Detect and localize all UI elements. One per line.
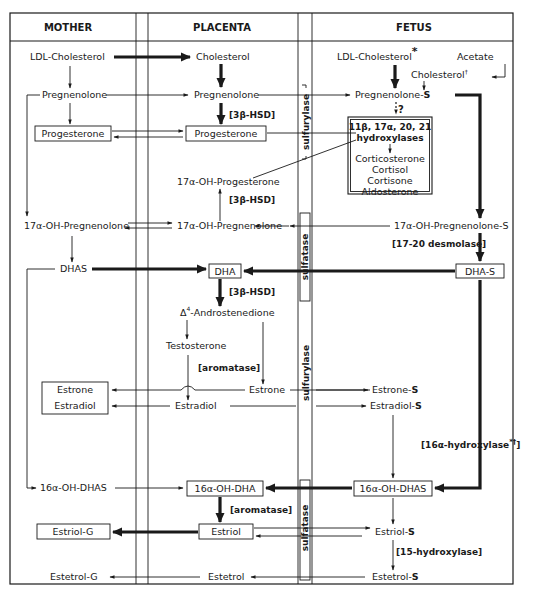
fetus-acetate: Acetate <box>457 51 494 62</box>
enzyme-3b-hsd-2: [3β-HSD] <box>229 195 275 205</box>
hydroxylases-title: 11β, 17α, 20, 21 <box>349 122 431 132</box>
mother-estradiol: Estradiol <box>54 400 96 411</box>
enzyme-17-20-desmolase: [17-20 desmolase] <box>392 239 486 249</box>
mother-ldl-cholesterol: LDL-Cholesterol <box>30 51 105 62</box>
steroid-pathway-diagram: MOTHER PLACENTA FETUS sulfurylase sulfat… <box>0 0 534 595</box>
fetus-estrone-s: Estrone-S <box>372 384 418 395</box>
hydroxylases-box: 11β, 17α, 20, 21 hydroxylases Corticoste… <box>348 117 432 197</box>
fetus-estriol-s: Estriol-S <box>375 526 415 537</box>
fetus-estradiol-s: Estradiol-S <box>370 400 422 411</box>
placenta-testosterone: Testosterone <box>165 340 227 351</box>
mother-estriol-g: Estriol-G <box>53 526 94 537</box>
fetus-estetrol-s: Estetrol-S <box>372 571 419 582</box>
fetus-cholesterol: Cholesterol† <box>411 68 468 80</box>
product-cortisone: Cortisone <box>367 175 412 186</box>
barrier-sulfurylase-1: sulfurylase <box>301 85 311 159</box>
mother-16oh-dhas: 16α-OH-DHAS <box>40 482 107 493</box>
mother-estetrol-g: Estetrol-G <box>50 571 98 582</box>
barrier-sulfatase-2: sulfatase <box>300 480 310 580</box>
fetus-16oh-dhas: 16α-OH-DHAS <box>360 483 427 494</box>
placenta-cholesterol: Cholesterol <box>196 51 250 62</box>
enzyme-3b-hsd-1: [3β-HSD] <box>229 110 275 120</box>
placenta-pregnenolone: Pregnenolone <box>194 89 259 100</box>
placenta-estriol: Estriol <box>211 526 241 537</box>
enzyme-3b-hsd-3: [3β-HSD] <box>229 287 275 297</box>
barrier-sulfurylase-2: sulfurylase <box>301 345 311 401</box>
mother-estrone: Estrone <box>57 384 93 395</box>
enzyme-16a-hydroxylase: [16α-hydroxylase*†] <box>421 438 520 450</box>
placenta-estradiol: Estradiol <box>175 400 217 411</box>
hydroxylases-subtitle: hydroxylases <box>357 133 424 143</box>
placenta-androstenedione: Δ4-Androstenedione <box>180 305 275 318</box>
enzyme-15-hydroxylase: [15-hydroxylase] <box>396 547 482 557</box>
column-header-placenta: PLACENTA <box>193 22 251 33</box>
fetus-pregnenolone-s: Pregnenolone-S <box>355 89 431 100</box>
placenta-16oh-dha: 16α-OH-DHA <box>195 483 256 494</box>
placenta-progesterone: Progesterone <box>195 128 258 139</box>
enzyme-aromatase-1: [aromatase] <box>198 363 260 373</box>
fetus-question-mark: ? <box>398 104 404 115</box>
product-cortisol: Cortisol <box>372 164 408 175</box>
svg-text:sulfatase: sulfatase <box>300 234 310 281</box>
product-aldosterone: Aldosterone <box>362 186 419 197</box>
mother-progesterone: Progesterone <box>42 128 105 139</box>
fetus-ldl-cholesterol: LDL-Cholesterol* <box>337 45 418 62</box>
mother-dhas: DHAS <box>60 263 87 274</box>
fetus-17oh-pregnenolone-s: 17α-OH-Pregnenolone-S <box>394 220 508 231</box>
product-corticosterone: Corticosterone <box>355 153 425 164</box>
placenta-dha: DHA <box>215 266 236 277</box>
placenta-estetrol: Estetrol <box>208 571 244 582</box>
column-header-mother: MOTHER <box>44 22 92 33</box>
placenta-estrone: Estrone <box>249 384 285 395</box>
enzyme-aromatase-2: [aromatase] <box>230 505 292 515</box>
placenta-17oh-progesterone: 17α-OH-Progesterone <box>177 176 280 187</box>
svg-text:sulfurylase: sulfurylase <box>301 94 311 150</box>
mother-pregnenolone: Pregnenolone <box>42 89 107 100</box>
fetus-dha-s: DHA-S <box>465 266 495 277</box>
svg-text:sulfurylase: sulfurylase <box>301 345 311 401</box>
column-header-fetus: FETUS <box>396 22 432 33</box>
mother-17oh-pregnenolone: 17α-OH-Pregnenolone <box>24 220 129 231</box>
placenta-17oh-pregnenolone: 17α-OH-Pregnenolone <box>177 220 282 231</box>
